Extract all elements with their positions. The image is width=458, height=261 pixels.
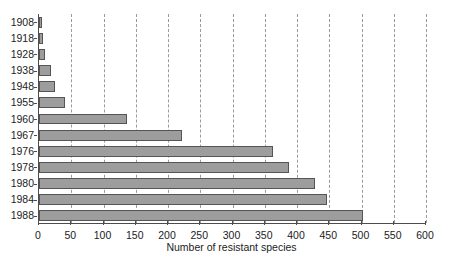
bar-row <box>39 79 426 95</box>
bar-1976 <box>39 146 273 157</box>
x-tick-mark <box>135 221 136 225</box>
bar-row <box>39 30 426 46</box>
x-tick-label-500: 500 <box>352 229 370 241</box>
bar-row <box>39 159 426 175</box>
bar-1967 <box>39 130 182 141</box>
y-tick-mark <box>34 38 37 39</box>
y-tick-label-1980: 1980 <box>0 178 34 189</box>
x-tick-label-600: 600 <box>416 229 434 241</box>
y-tick-mark <box>34 151 37 152</box>
bar-row <box>39 111 426 127</box>
y-tick-mark <box>34 216 37 217</box>
x-tick-mark <box>199 221 200 225</box>
bar-row <box>39 14 426 30</box>
chart-figure: 1908191819281938194819551960196719761978… <box>0 0 458 261</box>
y-tick-label-1988: 1988 <box>0 210 34 221</box>
y-tick-label-1976: 1976 <box>0 146 34 157</box>
x-tick-mark <box>425 221 426 225</box>
y-tick-mark <box>34 103 37 104</box>
y-tick-mark <box>34 54 37 55</box>
x-tick-label-50: 50 <box>64 229 76 241</box>
x-tick-label-0: 0 <box>35 229 41 241</box>
x-axis-tick-labels: 050100150200250300350400450500550600 <box>0 226 458 240</box>
y-tick-mark <box>34 71 37 72</box>
y-tick-mark <box>34 184 37 185</box>
x-tick-label-450: 450 <box>319 229 337 241</box>
y-tick-label-1948: 1948 <box>0 81 34 92</box>
x-tick-label-350: 350 <box>255 229 273 241</box>
bar-row <box>39 208 426 224</box>
bar-1938 <box>39 65 51 76</box>
bar-row <box>39 127 426 143</box>
y-tick-mark <box>34 87 37 88</box>
bar-row <box>39 176 426 192</box>
x-tick-label-250: 250 <box>190 229 208 241</box>
y-tick-label-1955: 1955 <box>0 97 34 108</box>
bar-1984 <box>39 194 327 205</box>
bar-row <box>39 62 426 78</box>
y-tick-mark <box>34 135 37 136</box>
y-tick-label-1960: 1960 <box>0 114 34 125</box>
y-tick-label-1978: 1978 <box>0 162 34 173</box>
y-tick-mark <box>34 167 37 168</box>
bar-1980 <box>39 178 315 189</box>
y-axis-tick-labels: 1908191819281938194819551960196719761978… <box>0 14 34 224</box>
y-tick-mark <box>34 200 37 201</box>
bar-1988 <box>39 210 363 221</box>
x-tick-label-100: 100 <box>94 229 112 241</box>
x-tick-mark <box>38 221 39 225</box>
x-tick-label-550: 550 <box>384 229 402 241</box>
y-tick-label-1928: 1928 <box>0 49 34 60</box>
bar-row <box>39 143 426 159</box>
y-tick-label-1908: 1908 <box>0 17 34 28</box>
x-tick-mark <box>70 221 71 225</box>
x-tick-mark <box>393 221 394 225</box>
x-tick-label-300: 300 <box>223 229 241 241</box>
x-tick-mark <box>232 221 233 225</box>
y-tick-mark <box>34 22 37 23</box>
x-tick-mark <box>103 221 104 225</box>
bar-series <box>39 14 425 223</box>
bar-1908 <box>39 17 42 28</box>
x-axis-title: Number of resistant species <box>38 241 425 253</box>
bar-row <box>39 192 426 208</box>
x-tick-label-150: 150 <box>126 229 144 241</box>
x-tick-label-200: 200 <box>158 229 176 241</box>
x-tick-label-400: 400 <box>287 229 305 241</box>
bar-1960 <box>39 114 127 125</box>
bar-row <box>39 95 426 111</box>
x-tick-mark <box>361 221 362 225</box>
y-tick-mark <box>34 119 37 120</box>
gridline-600 <box>426 14 427 223</box>
bar-row <box>39 46 426 62</box>
y-tick-label-1918: 1918 <box>0 33 34 44</box>
bar-1948 <box>39 81 55 92</box>
bar-1918 <box>39 33 43 44</box>
y-tick-label-1967: 1967 <box>0 130 34 141</box>
bar-1978 <box>39 162 289 173</box>
plot-area <box>38 14 425 224</box>
x-tick-mark <box>328 221 329 225</box>
bar-1928 <box>39 49 45 60</box>
y-tick-label-1938: 1938 <box>0 65 34 76</box>
x-tick-mark <box>296 221 297 225</box>
y-tick-label-1984: 1984 <box>0 194 34 205</box>
x-tick-mark <box>167 221 168 225</box>
x-tick-mark <box>264 221 265 225</box>
bar-1955 <box>39 97 65 108</box>
